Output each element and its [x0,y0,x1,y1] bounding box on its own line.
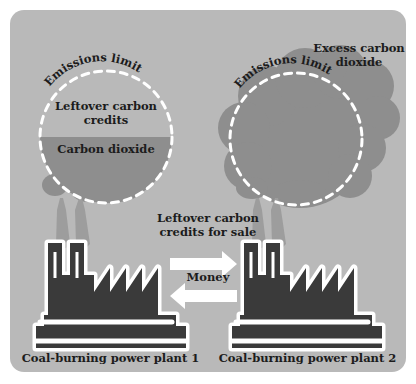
left-emissions-limit-label: Emissions limit [41,50,145,89]
credits-for-sale-label: Leftover carbon credits for sale [148,212,268,239]
left-leftover-line1: Leftover carbon [55,99,157,113]
left-carbon-dioxide-label: Carbon dioxide [36,143,176,157]
money-label: Money [158,271,258,285]
right-excess-label: Excess carbon dioxide [306,42,412,69]
right-excess-line2: dioxide [336,55,383,69]
left-leftover-credits-label: Leftover carbon credits [36,100,176,127]
diagram-canvas: Emissions limit [0,0,416,384]
arrow-money [170,283,237,309]
right-excess-line1: Excess carbon [313,41,404,55]
left-factory [36,243,186,348]
left-leftover-line2: credits [84,113,129,127]
right-plant-caption: Coal-burning power plant 2 [215,352,400,366]
left-plant-caption: Coal-burning power plant 1 [18,352,203,366]
right-factory [232,243,382,348]
sale-line1: Leftover carbon [157,211,259,225]
sale-line2: credits for sale [160,225,257,239]
